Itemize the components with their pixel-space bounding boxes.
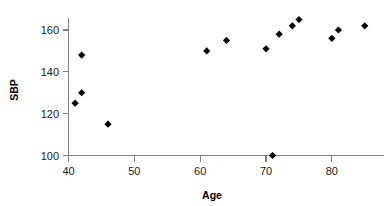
y-tick-label: 160 — [41, 24, 59, 36]
x-axis-tick-labels: 4050607080 — [62, 165, 338, 177]
x-axis-title: Age — [202, 189, 222, 201]
data-point-marker — [78, 89, 85, 96]
data-point-marker — [262, 45, 269, 52]
data-point-marker — [203, 47, 210, 54]
data-point-marker — [335, 26, 342, 33]
scatter-plot-figure: 100120140160 4050607080 Age SBP — [0, 0, 391, 206]
x-tick-label: 70 — [260, 165, 272, 177]
x-tick-label: 50 — [128, 165, 140, 177]
data-point-series — [71, 16, 368, 159]
data-point-marker — [269, 152, 276, 159]
data-point-marker — [328, 35, 335, 42]
data-point-marker — [78, 52, 85, 59]
y-tick-label: 120 — [41, 108, 59, 120]
data-point-marker — [71, 100, 78, 107]
y-axis-title: SBP — [8, 79, 20, 101]
data-point-marker — [295, 16, 302, 23]
data-point-marker — [276, 31, 283, 38]
x-tick-label: 60 — [194, 165, 206, 177]
data-point-marker — [361, 22, 368, 29]
x-tick-label: 80 — [326, 165, 338, 177]
data-point-marker — [104, 121, 111, 128]
y-axis-tick-labels: 100120140160 — [41, 24, 59, 162]
y-tick-label: 140 — [41, 66, 59, 78]
x-tick-label: 40 — [62, 165, 74, 177]
tick-marks — [63, 30, 332, 162]
plot-canvas: 100120140160 4050607080 Age SBP — [0, 0, 391, 206]
data-point-marker — [289, 22, 296, 29]
y-tick-label: 100 — [41, 150, 59, 162]
data-point-marker — [223, 37, 230, 44]
